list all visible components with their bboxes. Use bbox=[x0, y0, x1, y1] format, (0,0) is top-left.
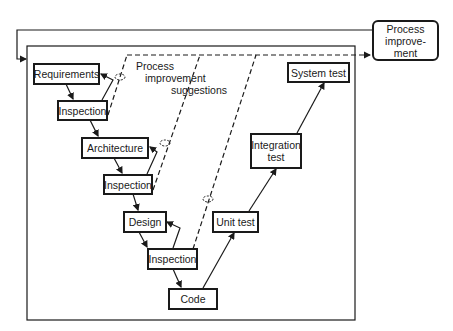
integration-test-node: Integration test bbox=[250, 133, 302, 169]
process-improvement-line-3: ment bbox=[394, 47, 417, 59]
suggestions-label-3: suggestions bbox=[171, 84, 227, 96]
requirements-node: Requirements bbox=[33, 63, 100, 85]
architecture-node: Architecture bbox=[81, 137, 149, 159]
design-node: Design bbox=[123, 211, 167, 233]
integration-test-line-2: test bbox=[268, 151, 285, 163]
code-node: Code bbox=[168, 288, 218, 310]
process-improvement-line-1: Process bbox=[387, 23, 425, 35]
process-improvement-line-2: improve- bbox=[385, 35, 426, 47]
suggestions-label-1: Process bbox=[136, 60, 174, 72]
inspection-node-3: Inspection bbox=[147, 248, 198, 270]
inspection-node-1: Inspection bbox=[57, 100, 108, 121]
unit-test-node: Unit test bbox=[212, 211, 259, 233]
inspection-node-2: Inspection bbox=[103, 174, 153, 195]
system-test-node: System test bbox=[287, 62, 350, 83]
suggestions-label-2: improvement bbox=[145, 72, 206, 84]
integration-test-line-1: Integration bbox=[251, 139, 301, 151]
process-improvement-node: Process improve- ment bbox=[372, 20, 439, 61]
